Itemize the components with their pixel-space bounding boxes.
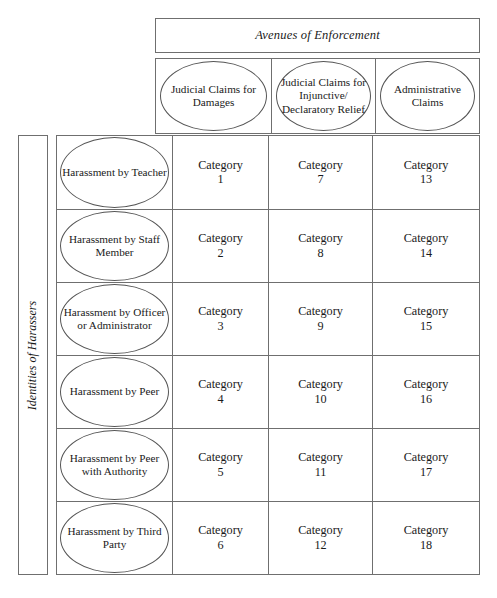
category-word-15: Category [404, 304, 449, 319]
row-label-text-1: Harassment by Staff Member [61, 233, 168, 259]
category-cell-9[interactable]: Category 9 [269, 283, 373, 355]
category-number-2: 2 [217, 246, 223, 261]
category-number-9: 9 [317, 319, 323, 334]
row-label-ellipse-harassment-by-third-party[interactable]: Harassment by Third Party [60, 503, 169, 573]
column-header-label-2: Administrative Claims [381, 83, 474, 109]
category-number-16: 16 [420, 392, 432, 407]
column-header-cell-0: Judicial Claims for Damages [156, 59, 272, 133]
category-word-12: Category [298, 523, 343, 538]
row-label-cell-4: Harassment by Peer with Authority [57, 428, 172, 501]
avenues-of-enforcement-banner: Avenues of Enforcement [155, 18, 480, 53]
category-word-8: Category [298, 231, 343, 246]
category-cell-10[interactable]: Category 10 [269, 356, 373, 428]
category-cell-2[interactable]: Category 2 [173, 210, 269, 282]
row-label-cell-1: Harassment by Staff Member [57, 209, 172, 282]
category-word-2: Category [198, 231, 243, 246]
category-cell-3[interactable]: Category 3 [173, 283, 269, 355]
row-label-cell-3: Harassment by Peer [57, 355, 172, 428]
category-word-3: Category [198, 304, 243, 319]
category-number-11: 11 [315, 465, 327, 480]
row-label-ellipse-harassment-by-officer-or-administrator[interactable]: Harassment by Officer or Administrator [60, 284, 169, 354]
category-number-8: 8 [317, 246, 323, 261]
category-cell-6[interactable]: Category 6 [173, 502, 269, 574]
row-label-text-4: Harassment by Peer with Authority [61, 452, 168, 478]
row-label-ellipse-harassment-by-staff-member[interactable]: Harassment by Staff Member [60, 211, 169, 281]
row-label-cell-5: Harassment by Third Party [57, 501, 172, 574]
category-word-13: Category [404, 158, 449, 173]
category-cell-11[interactable]: Category 11 [269, 429, 373, 501]
category-matrix-grid: Category 1 Category 7 Category 13 Catego… [172, 135, 480, 575]
category-number-14: 14 [420, 246, 432, 261]
row-label-text-2: Harassment by Officer or Administrator [61, 306, 168, 332]
category-cell-18[interactable]: Category 18 [373, 502, 479, 574]
category-word-14: Category [404, 231, 449, 246]
category-cell-7[interactable]: Category 7 [269, 136, 373, 209]
category-word-6: Category [198, 523, 243, 538]
row-label-ellipse-harassment-by-peer-with-authority[interactable]: Harassment by Peer with Authority [60, 430, 169, 500]
category-cell-1[interactable]: Category 1 [173, 136, 269, 209]
category-number-15: 15 [420, 319, 432, 334]
category-number-7: 7 [317, 172, 323, 187]
row-label-cell-2: Harassment by Officer or Administrator [57, 282, 172, 355]
category-cell-14[interactable]: Category 14 [373, 210, 479, 282]
category-number-4: 4 [217, 392, 223, 407]
row-label-text-0: Harassment by Teacher [62, 166, 167, 179]
category-word-7: Category [298, 158, 343, 173]
table-row: Category 2 Category 8 Category 14 [173, 209, 479, 282]
category-word-4: Category [198, 377, 243, 392]
category-cell-13[interactable]: Category 13 [373, 136, 479, 209]
row-label-text-3: Harassment by Peer [70, 385, 159, 398]
category-number-5: 5 [217, 465, 223, 480]
category-cell-4[interactable]: Category 4 [173, 356, 269, 428]
identities-of-harassers-label: Identities of Harassers [26, 300, 41, 409]
category-word-9: Category [298, 304, 343, 319]
category-word-16: Category [404, 377, 449, 392]
table-row: Category 5 Category 11 Category 17 [173, 428, 479, 501]
category-word-18: Category [404, 523, 449, 538]
category-number-10: 10 [314, 392, 326, 407]
column-header-ellipse-judicial-claims-for-injunctive-declaratory-relief[interactable]: Judicial Claims for Injunctive/ Declarat… [276, 61, 371, 131]
table-row: Category 6 Category 12 Category 18 [173, 501, 479, 574]
category-number-13: 13 [420, 172, 432, 187]
category-word-10: Category [298, 377, 343, 392]
category-word-5: Category [198, 450, 243, 465]
column-header-label-0: Judicial Claims for Damages [161, 83, 266, 109]
column-header-ellipse-judicial-claims-for-damages[interactable]: Judicial Claims for Damages [160, 61, 267, 131]
column-header-ellipse-administrative-claims[interactable]: Administrative Claims [380, 61, 475, 131]
category-cell-8[interactable]: Category 8 [269, 210, 373, 282]
category-cell-12[interactable]: Category 12 [269, 502, 373, 574]
category-cell-5[interactable]: Category 5 [173, 429, 269, 501]
table-row: Category 4 Category 10 Category 16 [173, 355, 479, 428]
category-cell-15[interactable]: Category 15 [373, 283, 479, 355]
row-label-text-5: Harassment by Third Party [61, 525, 168, 551]
category-number-6: 6 [217, 538, 223, 553]
column-header-label-1: Judicial Claims for Injunctive/ Declarat… [277, 76, 370, 116]
category-number-18: 18 [420, 538, 432, 553]
table-row: Category 1 Category 7 Category 13 [173, 136, 479, 209]
category-cell-17[interactable]: Category 17 [373, 429, 479, 501]
table-row: Category 3 Category 9 Category 15 [173, 282, 479, 355]
row-label-cell-0: Harassment by Teacher [57, 136, 172, 209]
column-header-cell-1: Judicial Claims for Injunctive/ Declarat… [272, 59, 376, 133]
category-number-3: 3 [217, 319, 223, 334]
category-cell-16[interactable]: Category 16 [373, 356, 479, 428]
category-word-17: Category [404, 450, 449, 465]
column-header-strip: Judicial Claims for Damages Judicial Cla… [155, 58, 480, 134]
row-label-ellipse-harassment-by-peer[interactable]: Harassment by Peer [60, 357, 169, 427]
row-label-ellipse-harassment-by-teacher[interactable]: Harassment by Teacher [60, 137, 169, 208]
row-label-column: Harassment by Teacher Harassment by Staf… [56, 135, 173, 575]
category-number-12: 12 [314, 538, 326, 553]
category-number-17: 17 [420, 465, 432, 480]
category-word-1: Category [198, 158, 243, 173]
identities-of-harassers-axis: Identities of Harassers [18, 135, 48, 575]
category-word-11: Category [298, 450, 343, 465]
category-number-1: 1 [217, 172, 223, 187]
avenues-of-enforcement-label: Avenues of Enforcement [255, 28, 380, 43]
column-header-cell-2: Administrative Claims [376, 59, 479, 133]
